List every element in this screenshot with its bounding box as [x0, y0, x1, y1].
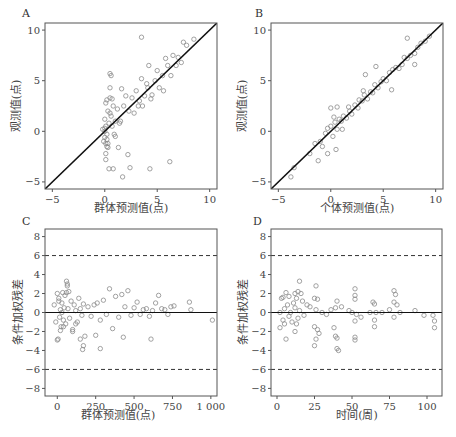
data-point: [115, 107, 119, 111]
scatter-points-d: [271, 256, 442, 370]
data-point: [179, 60, 183, 64]
data-point: [149, 337, 153, 341]
data-point: [332, 326, 336, 330]
data-point: [210, 318, 214, 322]
y-tick-label: −8: [251, 383, 266, 394]
data-point: [293, 306, 297, 310]
data-point: [361, 89, 365, 93]
data-point: [153, 301, 157, 305]
data-point: [80, 313, 84, 317]
data-point: [294, 322, 298, 326]
y-tick-label: 0: [34, 307, 40, 318]
data-point: [294, 296, 298, 300]
data-point: [86, 305, 90, 309]
data-point: [126, 289, 130, 293]
scatter-points-a: [45, 23, 217, 189]
data-point: [117, 315, 121, 319]
data-point: [335, 299, 339, 303]
y-ticks-d: −8−6−4−202468: [251, 231, 271, 394]
data-point: [120, 175, 124, 179]
data-point: [148, 167, 152, 171]
data-point: [297, 279, 301, 283]
data-point: [335, 105, 339, 109]
data-point: [52, 303, 56, 307]
y-axis-label-d: 条件加权残差: [236, 279, 250, 345]
data-point: [54, 320, 58, 324]
y-tick-label: 0: [260, 307, 266, 318]
data-point: [314, 284, 318, 288]
data-point: [291, 301, 295, 305]
panel-label-a: A: [21, 7, 31, 20]
data-point: [393, 292, 397, 296]
data-point: [156, 293, 160, 297]
y-tick-label: 10: [27, 25, 40, 36]
data-point: [325, 151, 329, 155]
data-point: [139, 35, 143, 39]
data-point: [121, 335, 125, 339]
data-point: [353, 338, 357, 342]
data-point: [282, 322, 286, 326]
data-point: [123, 305, 127, 309]
data-point: [296, 316, 300, 320]
data-point: [57, 315, 61, 319]
data-point: [413, 62, 417, 66]
data-point: [374, 64, 378, 68]
y-tick-label: 6: [260, 250, 266, 261]
y-tick-label: 5: [260, 75, 266, 86]
x-tick-label: −5: [45, 194, 60, 205]
data-point: [353, 319, 357, 323]
data-point: [107, 287, 111, 291]
data-point: [128, 166, 132, 170]
data-point: [130, 96, 134, 100]
y-axis-label-c: 条件加权残差: [11, 279, 25, 345]
data-point: [289, 175, 293, 179]
data-point: [431, 313, 435, 317]
data-point: [432, 326, 436, 330]
data-point: [98, 318, 102, 322]
data-point: [333, 306, 337, 310]
data-point: [395, 303, 399, 307]
data-point: [387, 308, 391, 312]
y-tick-label: −8: [25, 383, 40, 394]
data-point: [140, 104, 144, 108]
data-point: [78, 307, 82, 311]
panel-c: C 02505007501 000 −8−6−4−202468 群体预测值(点)…: [11, 215, 225, 422]
data-point: [372, 318, 376, 322]
data-point: [134, 89, 138, 93]
data-point: [184, 43, 188, 47]
data-point: [83, 334, 87, 338]
y-tick-label: 4: [260, 269, 266, 280]
data-point: [290, 320, 294, 324]
y-tick-label: −6: [251, 364, 266, 375]
panel-label-b: B: [255, 7, 263, 20]
y-tick-label: −2: [25, 326, 40, 337]
data-point: [432, 319, 436, 323]
y-ticks-c: −8−6−4−202468: [25, 231, 45, 394]
data-point: [284, 290, 288, 294]
data-point: [325, 126, 329, 130]
data-point: [103, 117, 107, 121]
data-point: [77, 296, 81, 300]
data-point: [169, 73, 173, 77]
x-tick-label: 10: [429, 194, 442, 205]
x-tick-label: −5: [271, 194, 286, 205]
data-point: [111, 104, 115, 108]
data-point: [147, 63, 151, 67]
data-point: [334, 147, 338, 151]
x-axis-label-c: 群体预测值(点): [81, 408, 156, 422]
figure: A −50510 −50510 群体预测值(点) 观测值(点) B −50510…: [0, 0, 456, 437]
data-point: [312, 344, 316, 348]
y-tick-label: 2: [260, 288, 266, 299]
data-point: [132, 306, 136, 310]
data-point: [157, 86, 161, 90]
data-point: [329, 308, 333, 312]
data-point: [108, 86, 112, 90]
data-point: [329, 124, 333, 128]
panel-a: A −50510 −50510 群体预测值(点) 观测值(点): [10, 7, 217, 215]
x-tick-label: 25: [308, 401, 321, 412]
data-point: [314, 337, 318, 341]
y-tick-label: 8: [34, 231, 40, 242]
identity-line: [45, 23, 217, 189]
data-point: [189, 308, 193, 312]
data-point: [147, 314, 151, 318]
